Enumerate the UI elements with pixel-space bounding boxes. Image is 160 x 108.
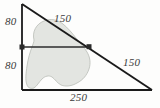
label-base-250: 250 — [70, 92, 87, 103]
geometry-figure: 80 80 150 150 250 — [0, 0, 160, 108]
midline-right-endpoint-marker — [87, 44, 92, 49]
shaded-region-blob — [26, 20, 90, 89]
label-hypotenuse-upper-150: 150 — [54, 13, 71, 24]
label-left-lower-80: 80 — [5, 60, 16, 71]
midline-left-endpoint-marker — [20, 45, 25, 50]
label-left-upper-80: 80 — [5, 16, 16, 27]
label-hypotenuse-lower-150: 150 — [123, 57, 140, 68]
